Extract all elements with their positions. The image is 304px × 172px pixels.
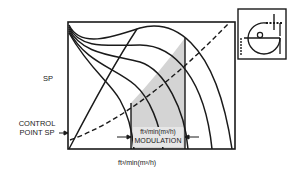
control-point-arrow [59, 131, 68, 135]
control-point-label: CONTROL POINT SP [15, 119, 59, 137]
y-axis-label: SP [43, 74, 53, 83]
modulation-units: ft³/min(m³/h) [133, 127, 183, 136]
modulation-label-box: ft³/min(m³/h) MODULATION [133, 127, 183, 147]
fan-with-inlet-vanes-icon [238, 9, 286, 59]
modulation-label: MODULATION [133, 136, 183, 145]
control-point-label-line2: POINT SP [15, 128, 59, 137]
surge-line [69, 29, 137, 149]
control-point-label-line1: CONTROL [15, 119, 59, 128]
x-axis-label: ft³/min(m³/h) [118, 158, 156, 167]
